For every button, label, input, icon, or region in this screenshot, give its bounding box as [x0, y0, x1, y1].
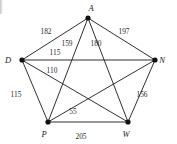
edge-weight-d-n: 115	[50, 48, 61, 57]
vertex-label-p: P	[40, 129, 46, 139]
edge-weight-a-d: 182	[40, 27, 51, 36]
graph-vertex-w	[125, 119, 130, 124]
edge-weight-p-w: 205	[75, 132, 86, 141]
edge-weight-n-w: 156	[136, 90, 147, 99]
graph-vertex-n	[152, 57, 157, 62]
vertex-label-w: W	[122, 129, 130, 139]
graph-vertex-a	[85, 15, 90, 20]
graph-canvas: 18219715918011511011515655205 ADNPW	[0, 0, 177, 144]
graph-edge-d-p	[22, 60, 48, 122]
edge-weight-a-p: 159	[61, 39, 72, 48]
node-labels-group: ADNPW	[4, 3, 166, 139]
vertex-label-d: D	[4, 55, 12, 65]
edge-weight-d-w: 110	[47, 66, 58, 75]
graph-figure: 18219715918011511011515655205 ADNPW	[0, 0, 177, 144]
edge-weight-a-n: 197	[118, 27, 129, 36]
edge-weight-d-p: 115	[11, 90, 22, 99]
vertex-label-a: A	[87, 3, 94, 13]
edge-weight-a-w: 180	[90, 39, 101, 48]
graph-vertex-d	[19, 57, 24, 62]
graph-vertex-p	[45, 119, 50, 124]
vertex-label-n: N	[158, 55, 166, 65]
edge-weight-n-p: 55	[69, 107, 77, 116]
